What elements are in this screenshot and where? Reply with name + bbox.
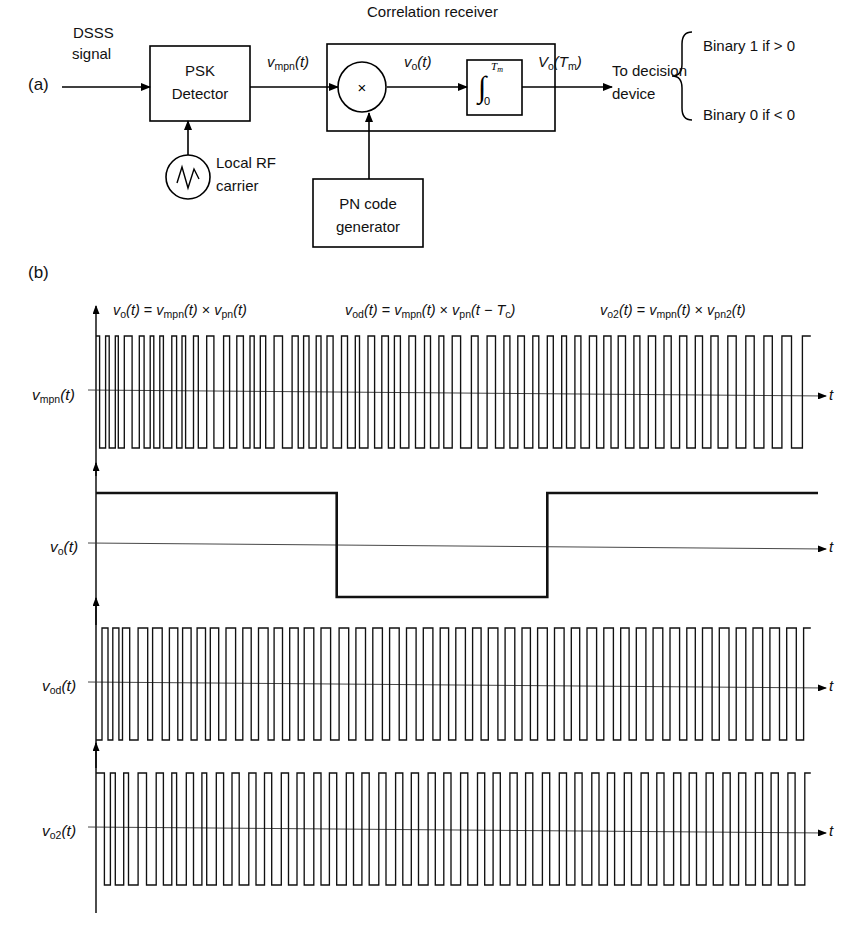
- waveform-plot-svg: [0, 300, 849, 938]
- pn-code-generator-box: [313, 179, 423, 247]
- multiplier-symbol: ×: [358, 79, 367, 96]
- decision-rule-binary-0: Binary 0 if < 0: [703, 106, 795, 124]
- signal-label-vmpn: vmpn(t): [267, 53, 309, 72]
- integral-lower-limit: 0: [484, 95, 490, 107]
- sine-wave-icon: [177, 167, 199, 188]
- psk-detector-line1: PSK: [150, 62, 250, 80]
- votm-arg-sub: m: [568, 60, 577, 72]
- signal-label-vo: vo(t): [404, 53, 432, 72]
- dsss-signal-label-line1: DSSS: [73, 24, 114, 42]
- waveform-v_o(t): [96, 493, 818, 597]
- t-axis-v_od(t): [88, 682, 826, 688]
- pn-code-generator-line1: PN code: [313, 195, 423, 213]
- vmpn-sub: mpn: [275, 60, 295, 72]
- panel-a-label: (a): [28, 75, 49, 95]
- votm-arg: (T: [554, 53, 568, 70]
- waveform-v_od(t): [96, 628, 811, 740]
- correlation-receiver-title: Correlation receiver: [367, 3, 498, 21]
- signal-label-voTm: Vo(Tm): [538, 53, 582, 72]
- t-axis-v_o(t): [88, 543, 826, 549]
- vo-arg: (t): [417, 53, 431, 70]
- decision-device-line1: To decision: [612, 62, 687, 80]
- dsss-signal-label-line2: signal: [72, 45, 111, 63]
- vo-base: v: [404, 53, 412, 70]
- local-rf-carrier-line2: carrier: [216, 177, 259, 195]
- psk-detector-line2: Detector: [150, 85, 250, 103]
- figure-root: × ∫ Tm 0 (a) DSSS signal Correlation rec…: [0, 0, 849, 938]
- waveform-v_o2(t): [96, 773, 811, 885]
- vmpn-arg: (t): [295, 53, 309, 70]
- pn-code-generator-line2: generator: [313, 218, 423, 236]
- waveform-v_mpn(t): [96, 336, 811, 448]
- t-axis-v_o2(t): [88, 827, 826, 833]
- panel-b-label: (b): [28, 263, 49, 283]
- local-oscillator-circle: [166, 155, 210, 199]
- decision-rule-binary-1: Binary 1 if > 0: [703, 37, 795, 55]
- vmpn-base: v: [267, 53, 275, 70]
- psk-detector-box: [150, 46, 250, 121]
- votm-arg-end: ): [577, 53, 582, 70]
- decision-device-line2: device: [612, 85, 655, 103]
- integral-upper-limit: Tm: [491, 60, 503, 74]
- local-rf-carrier-line1: Local RF: [216, 154, 276, 172]
- votm-base: V: [538, 53, 548, 70]
